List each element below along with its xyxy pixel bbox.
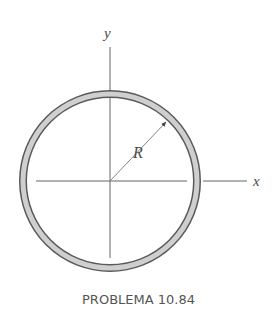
figure-caption: PROBLEMA 10.84 xyxy=(0,292,277,307)
radius-label: R xyxy=(132,144,143,161)
x-axis-label: x xyxy=(252,173,260,189)
diagram-canvas: y x R xyxy=(0,0,277,315)
y-axis-label: y xyxy=(102,25,111,41)
